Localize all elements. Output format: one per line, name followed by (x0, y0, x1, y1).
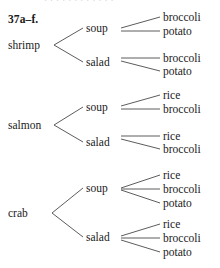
edge-salmon-salad (54, 125, 83, 142)
tree-leaf-crab-soup-broccoli: broccoli (163, 183, 201, 195)
exercise-number-label: 37a–f. (8, 13, 38, 25)
tree-node-crab: crab (8, 207, 28, 219)
tree-leaf-salmon-salad-broccoli: broccoli (163, 143, 201, 155)
edge-salmon-soup (54, 107, 83, 125)
tree-leaf-crab-soup-rice: rice (163, 169, 180, 181)
edge-crab-salad-rice (121, 224, 160, 236)
tree-leaf-crab-salad-rice: rice (163, 218, 180, 230)
edge-crab-salad (52, 213, 83, 237)
tree-leaf-shrimp-salad-broccoli: broccoli (163, 52, 201, 64)
tree-leaf-salmon-soup-rice: rice (163, 89, 180, 101)
tree-node-salmon-salad: salad (86, 136, 110, 148)
edge-salmon-soup-rice (121, 95, 160, 106)
tree-leaf-shrimp-soup-broccoli: broccoli (163, 11, 201, 23)
tree-node-shrimp-salad: salad (86, 56, 110, 68)
edge-shrimp-soup-broccoli (121, 17, 160, 28)
tree-leaf-salmon-salad-rice: rice (163, 130, 180, 142)
tree-node-salmon: salmon (8, 119, 41, 131)
edge-salmon-salad-broccoli (121, 139, 160, 149)
tree-node-crab-soup: soup (86, 182, 108, 194)
edge-crab-soup (52, 188, 83, 213)
edge-crab-soup-rice (121, 175, 160, 188)
tree-leaf-salmon-soup-broccoli: broccoli (163, 103, 201, 115)
edge-crab-soup-potato (121, 190, 160, 203)
edge-crab-salad-potato (121, 240, 160, 252)
tree-leaf-crab-soup-potato: potato (163, 197, 192, 209)
tree-leaf-crab-salad-potato: potato (163, 246, 192, 258)
tree-node-crab-salad: salad (86, 231, 110, 243)
tree-node-shrimp-soup: soup (86, 22, 108, 34)
edge-shrimp-salad-potato (121, 61, 160, 71)
tree-node-salmon-soup: soup (86, 101, 108, 113)
edge-shrimp-salad (54, 45, 83, 62)
edge-shrimp-soup (54, 28, 83, 45)
tree-leaf-shrimp-soup-potato: potato (163, 25, 192, 37)
tree-leaf-shrimp-salad-potato: potato (163, 65, 192, 77)
tree-node-shrimp: shrimp (8, 39, 40, 51)
tree-leaf-crab-salad-broccoli: broccoli (163, 232, 201, 244)
tree-diagram-figure: · · · · · · · · · · · · 37a–f. (0, 0, 220, 268)
